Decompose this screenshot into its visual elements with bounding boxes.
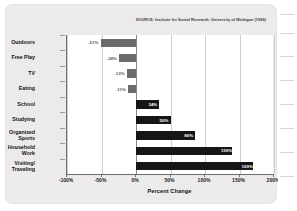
x-tick-mark [273,174,274,177]
category-label: Outdoors [0,40,35,46]
x-tick-label: 0% [131,177,138,183]
y-tick-mark [60,128,65,129]
x-tick-mark [135,174,136,177]
y-tick-mark [60,143,65,144]
bar-value-label: 50% [160,118,169,123]
category-label: Eating [0,86,35,92]
plot-area: -51%-24%-13%-11%34%50%86%139%169% [66,35,273,174]
gridline [274,35,275,174]
y-tick-mark [60,97,65,98]
bar[interactable] [128,85,136,93]
bars-layer: -51%-24%-13%-11%34%50%86%139%169% [67,35,273,174]
bar-value-label: 86% [184,133,193,138]
x-tick-label: -100% [59,177,73,183]
bar-value-label: 169% [242,164,253,169]
bar-value-label: -13% [114,71,124,76]
x-axis-title: Percent Change [66,188,273,194]
bar-value-label: 34% [148,102,157,107]
bar[interactable] [136,147,232,155]
y-tick-mark [60,66,65,67]
bar[interactable] [136,162,253,170]
bar[interactable] [127,69,136,77]
y-tick-mark [60,112,65,113]
bar-value-label: -11% [116,87,126,92]
x-tick-mark [101,174,102,177]
x-tick-mark [66,174,67,177]
x-tick-mark [170,174,171,177]
category-label: Visiting/Traveling [0,161,35,173]
bar-value-label: 139% [221,148,232,153]
source-note: SOURCE: Institute for Social Research, U… [6,17,266,22]
page-edge-strip [278,0,297,211]
x-tick-label: 150% [232,177,245,183]
y-tick-mark [60,159,65,160]
chart-page: SOURCE: Institute for Social Research, U… [0,0,297,211]
y-tick-mark [60,50,65,51]
bar-value-label: -51% [88,40,98,45]
category-label: OrganizedSports [0,130,35,142]
figure-card: SOURCE: Institute for Social Research, U… [6,5,276,203]
x-tick-label: -50% [95,177,107,183]
x-tick-label: 100% [198,177,211,183]
category-label: School [0,102,35,108]
y-tick-mark [60,35,65,36]
y-tick-mark [60,81,65,82]
category-label: TV [0,71,35,77]
bar-value-label: -24% [107,56,117,61]
category-label: Studying [0,117,35,123]
bar[interactable] [119,54,136,62]
bar[interactable] [101,39,136,47]
category-label: Free Play [0,55,35,61]
x-tick-mark [204,174,205,177]
x-tick-mark [239,174,240,177]
x-tick-label: 50% [164,177,174,183]
category-label: HouseholdWork [0,145,35,157]
